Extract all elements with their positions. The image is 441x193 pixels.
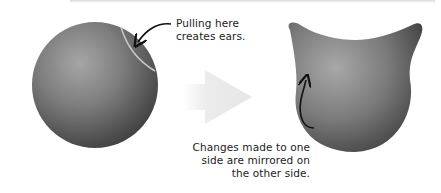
transform-arrow-icon — [182, 70, 252, 124]
callout-line: the other side. — [150, 167, 310, 180]
cat-head-model — [289, 23, 423, 152]
callout-arrow-ears — [138, 24, 171, 42]
callout-mirror-text: Changes made to one side are mirrored on… — [150, 141, 310, 180]
callout-line: Changes made to one — [150, 141, 310, 154]
callout-line: side are mirrored on — [150, 154, 310, 167]
callout-line: Pulling here — [176, 17, 245, 30]
callout-line: creates ears. — [176, 30, 245, 43]
callout-ears-text: Pulling here creates ears. — [176, 17, 245, 43]
